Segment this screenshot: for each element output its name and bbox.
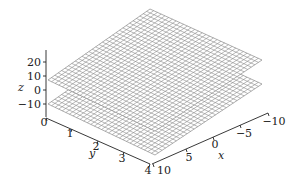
surface-plot-3d: 20 10 0 −10 z 0 1 2 3 4 y 10 5 0 −5 −10 … xyxy=(0,0,289,177)
z-tick-neg10: −10 xyxy=(18,98,41,111)
x-tick-neg10: −10 xyxy=(262,115,285,128)
x-tick-5: 5 xyxy=(186,151,193,164)
y-axis-label: y xyxy=(88,147,96,160)
y-tick-1: 1 xyxy=(67,127,74,140)
y-tick-3: 3 xyxy=(119,152,126,165)
y-tick-0: 0 xyxy=(41,116,48,129)
z-tick-10: 10 xyxy=(27,70,41,83)
x-tick-neg5: −5 xyxy=(236,127,252,140)
x-tick-10: 10 xyxy=(157,164,171,177)
z-axis-label: z xyxy=(17,81,24,94)
y-tick-4: 4 xyxy=(145,164,152,177)
z-tick-20: 20 xyxy=(27,56,41,69)
z-tick-0: 0 xyxy=(34,84,41,97)
z-axis: 20 10 0 −10 z xyxy=(17,50,46,117)
x-axis-label: x xyxy=(218,149,225,162)
